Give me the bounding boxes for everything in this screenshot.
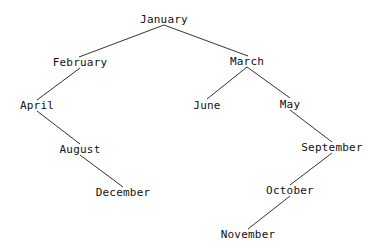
edge-may-september <box>290 110 332 142</box>
edge-october-november <box>248 196 290 229</box>
edge-september-october <box>290 153 332 185</box>
node-january: January <box>140 13 188 26</box>
node-october: October <box>266 184 314 197</box>
node-may: May <box>280 98 300 111</box>
node-september: September <box>301 141 362 154</box>
node-june: June <box>193 99 220 112</box>
edge-march-may <box>247 67 290 98</box>
edge-february-april <box>37 68 80 100</box>
edge-april-august <box>37 111 80 144</box>
node-april: April <box>20 99 54 112</box>
edge-january-march <box>164 25 248 56</box>
node-november: November <box>221 228 276 241</box>
edge-january-february <box>79 25 164 57</box>
node-december: December <box>96 186 151 199</box>
node-august: August <box>60 143 101 156</box>
node-march: March <box>230 55 264 68</box>
edge-august-december <box>80 155 123 187</box>
tree-edges <box>0 0 377 250</box>
edge-march-june <box>207 67 247 99</box>
node-february: February <box>53 56 108 69</box>
